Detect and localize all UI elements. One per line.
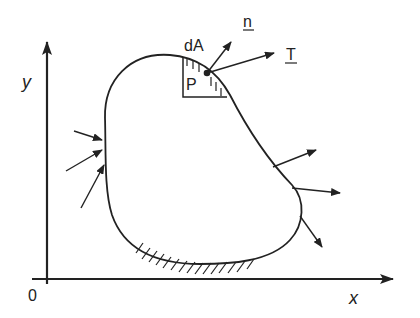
area-element-label: dA — [184, 37, 204, 54]
y-axis-label: y — [20, 72, 32, 92]
origin-label: 0 — [28, 287, 37, 304]
applied-loads-right — [273, 150, 340, 247]
fixed-support-hatching — [136, 243, 254, 274]
normal-vector-label: n — [243, 13, 252, 30]
traction-vector-label: T — [286, 46, 296, 63]
x-axis-label: x — [348, 288, 359, 308]
traction-vector-arrow — [207, 53, 274, 73]
diagram-canvas: y x 0 P dA n T — [0, 0, 420, 318]
applied-loads-left — [66, 131, 104, 208]
point-label: P — [186, 76, 197, 93]
body-outline — [105, 55, 302, 264]
normal-vector-arrow — [207, 42, 231, 73]
